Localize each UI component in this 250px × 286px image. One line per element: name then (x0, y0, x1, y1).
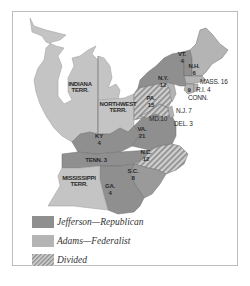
mississippi-territory (48, 166, 108, 210)
legend-item-jefferson: Jefferson—Republican (32, 216, 144, 228)
label-delaware: DEL. 3 (174, 120, 193, 127)
label-tennessee: TENN. 3 (85, 157, 107, 163)
legend-label: Adams—Federalist (57, 236, 130, 246)
adams-swatch (32, 235, 54, 247)
label-massachusetts: MASS. 16 (200, 78, 228, 85)
label-maryland: MD.10 (149, 115, 168, 122)
legend-label: Jefferson—Republican (57, 217, 144, 227)
label-new-jersey: N.J. 7 (176, 107, 192, 114)
ohio-region (98, 94, 134, 134)
jefferson-swatch (32, 216, 54, 228)
divided-swatch (32, 254, 54, 266)
legend-item-divided: Divided (32, 254, 87, 266)
label-connecticut: CONN. (188, 94, 208, 101)
legend-item-adams: Adams—Federalist (32, 235, 130, 247)
legend-label: Divided (57, 255, 87, 265)
label-rhode-island: R.I. 4 (196, 86, 211, 93)
